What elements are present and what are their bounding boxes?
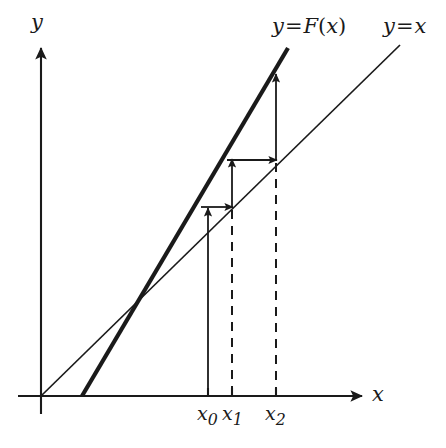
- tick-label-x2: x2: [265, 404, 286, 428]
- identity-label-lhs: y: [383, 14, 395, 38]
- identity-line-y-equals-x: [41, 45, 400, 396]
- map-curve-y-equals-f-of-x: [82, 48, 288, 396]
- cobweb-diagram-figure: y=F(x) y=x y x x0 x1 x2: [0, 0, 446, 448]
- curve-label-lhs: y: [272, 14, 284, 38]
- curve-label-argument: x: [326, 14, 338, 38]
- curve-label-y-equals-f-of-x: y=F(x): [272, 16, 346, 37]
- x-axis-label: x: [372, 384, 384, 405]
- tick-label-x2-subscript: 2: [276, 410, 286, 429]
- diagram-canvas: [0, 0, 446, 448]
- curve-label-function-name: F: [303, 14, 318, 38]
- identity-label-rhs: x: [414, 14, 426, 38]
- axes-group: [18, 48, 362, 414]
- tick-label-x1-subscript: 1: [233, 410, 243, 429]
- curve-label-close-paren: ): [338, 14, 346, 38]
- tick-label-x1-base: x: [222, 402, 233, 424]
- line-label-y-equals-x: y=x: [383, 16, 426, 37]
- identity-label-equals: =: [395, 14, 415, 38]
- tick-label-x0-base: x: [197, 402, 208, 424]
- cobweb-arrows-group: [201, 74, 277, 395]
- curve-label-equals: =: [284, 14, 304, 38]
- tick-label-x1: x1: [222, 404, 243, 428]
- tick-label-x2-base: x: [265, 402, 276, 424]
- dashed-drop-lines-group: [232, 163, 276, 394]
- tick-label-x0-subscript: 0: [208, 410, 218, 429]
- tick-label-x0: x0: [197, 404, 218, 428]
- y-axis-label: y: [31, 12, 43, 33]
